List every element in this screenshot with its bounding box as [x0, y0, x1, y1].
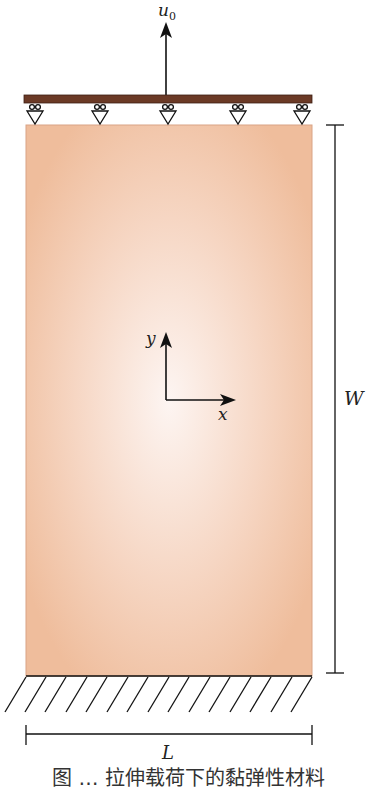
height-label: W [344, 387, 364, 409]
roller-support-icon [230, 105, 246, 124]
top-loading-plate [24, 95, 312, 103]
load-label: u0 [158, 0, 176, 23]
roller-support-icon [92, 105, 108, 124]
load-subscript: 0 [169, 10, 176, 23]
roller-support-icon [27, 105, 43, 124]
roller-supports [27, 105, 310, 124]
fixed-support-hatch [5, 676, 312, 712]
load-arrow-icon [160, 22, 172, 95]
roller-support-icon [160, 105, 176, 124]
roller-support-icon [294, 105, 310, 124]
load-symbol: u [158, 0, 169, 20]
y-axis-label: y [146, 328, 156, 348]
width-label: L [162, 742, 174, 763]
x-axis-label: x [218, 404, 228, 424]
figure-caption: 图 … 拉伸载荷下的黏弹性材料 [0, 762, 377, 791]
height-dimension [326, 125, 344, 673]
